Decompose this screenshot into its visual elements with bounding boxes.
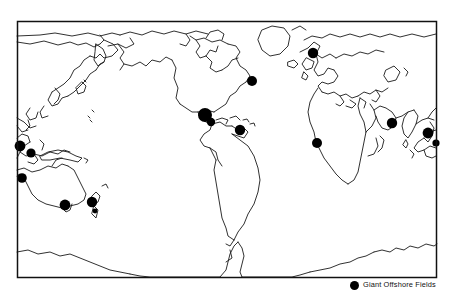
legend-label: Giant Offshore Fields <box>363 281 436 288</box>
field-marker-south-china-sea <box>423 128 434 139</box>
field-marker-caribbean-trinidad <box>235 125 245 135</box>
coastlines-group <box>17 26 437 277</box>
world-map-figure: Giant Offshore Fields <box>0 0 457 303</box>
field-marker-new-zealand-south <box>93 209 98 214</box>
map-legend: Giant Offshore Fields <box>350 278 436 292</box>
field-marker-persian-gulf <box>387 118 397 128</box>
field-marker-java-sea <box>26 148 35 157</box>
map-frame-border <box>18 22 437 278</box>
filled-circle-icon <box>350 281 359 290</box>
field-marker-north-sea <box>308 48 318 58</box>
giant-offshore-field-markers <box>15 48 440 214</box>
field-marker-us-east-coast-atlantic <box>247 76 257 86</box>
field-marker-new-zealand-taranaki <box>87 197 97 207</box>
field-marker-australia-bass-strait <box>60 200 71 211</box>
field-marker-west-africa-nigeria <box>312 138 322 148</box>
field-marker-gulf-of-mexico-campeche <box>207 118 215 126</box>
field-marker-indonesia-west <box>15 141 26 152</box>
world-map-svg <box>0 0 457 303</box>
field-marker-australia-northwest-shelf <box>17 173 27 183</box>
